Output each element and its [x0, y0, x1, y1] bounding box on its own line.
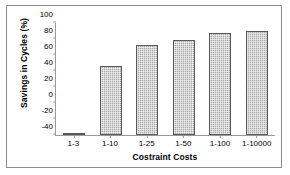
- bar[interactable]: [136, 45, 158, 135]
- x-axis-tickmark: [110, 135, 111, 138]
- bar-series: [56, 23, 275, 135]
- x-axis-tickmark: [220, 135, 221, 138]
- bar-slot: [202, 23, 239, 135]
- bar-slot: [166, 23, 203, 135]
- chart-frame: Savings in Cycles (%) 100806040200-20-40…: [6, 5, 282, 168]
- x-axis-tick-label: 1-50: [165, 139, 202, 148]
- y-axis-tick-label: 80: [27, 26, 53, 35]
- y-axis-tick-label: 100: [27, 10, 53, 19]
- bar[interactable]: [246, 31, 268, 135]
- y-axis-tick-label: 0: [27, 90, 53, 99]
- plot-area: 100806040200-20-40: [55, 23, 275, 136]
- bar[interactable]: [173, 40, 195, 135]
- bar-slot: [56, 23, 93, 135]
- x-axis-tickmark: [183, 135, 184, 138]
- x-axis-tick-label: 1-25: [128, 139, 165, 148]
- y-axis-tick-label: 20: [27, 74, 53, 83]
- x-axis-tick-label: 1-3: [55, 139, 92, 148]
- y-axis-tick-label: 40: [27, 58, 53, 67]
- x-axis-tick-label: 1-10000: [238, 139, 275, 148]
- x-axis-tickmark: [74, 135, 75, 138]
- x-axis-tick-label: 1-100: [202, 139, 239, 148]
- x-axis-tickmark: [147, 135, 148, 138]
- y-axis-tick-label: -40: [27, 122, 53, 131]
- bar-slot: [129, 23, 166, 135]
- x-axis-tickmark: [256, 135, 257, 138]
- bar-slot: [93, 23, 130, 135]
- y-axis-tick-label: -20: [27, 106, 53, 115]
- bar-slot: [239, 23, 276, 135]
- bar[interactable]: [209, 33, 231, 135]
- y-axis-tick-label: 60: [27, 42, 53, 51]
- x-axis-title: Costraint Costs: [55, 152, 275, 162]
- x-axis-tick-label: 1-10: [92, 139, 129, 148]
- x-axis-tick-labels: 1-31-101-251-501-1001-10000: [55, 139, 275, 148]
- bar[interactable]: [100, 66, 122, 135]
